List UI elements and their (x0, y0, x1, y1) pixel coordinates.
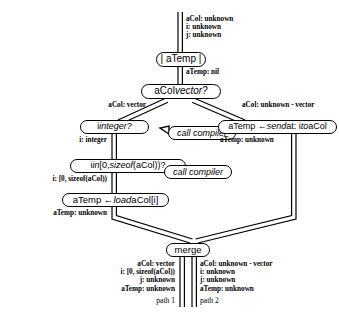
node-load-prefix: aTemp ← (73, 195, 114, 205)
diagram-canvas: | aTemp | aCol vector? i integer? call c… (0, 0, 339, 319)
node-merge[interactable]: merge (166, 243, 210, 257)
annotation-branch-false-acol-unknown: aCol: unknown - vector (242, 101, 314, 109)
node-test-i-integer-emph: integer? (99, 122, 132, 131)
node-merge-label: merge (175, 245, 202, 255)
node-load-suffix: aCol[i] (131, 195, 158, 205)
node-call-compiler-2-label: call compiler (173, 168, 223, 177)
node-test-acol-vector-prefix: aCol (154, 86, 175, 96)
label-path-2: path 2 (200, 297, 219, 305)
node-test-acol-vector[interactable]: aCol vector? (141, 84, 221, 99)
annotation-merge-path1-state: aCol: vector i: [0, sizeof(aCol)) j: unk… (83, 260, 175, 293)
annotation-merge-path2-state: aCol: unknown - vector i: unknown j: unk… (200, 260, 272, 293)
node-test-i-integer[interactable]: i integer? (80, 120, 149, 134)
edge-send-to-merge (196, 134, 297, 243)
node-send-suffix: aCol (308, 122, 327, 131)
edge-merge-path2 (192, 257, 196, 307)
node-send-mid: at: i (286, 122, 301, 131)
edge-entry-to-decl (178, 12, 182, 52)
annotation-branch-true-acol-vector: aCol: vector (58, 101, 146, 109)
node-send-emph2: to (301, 122, 309, 131)
node-declaration-label: | aTemp | (161, 54, 202, 64)
annotation-after-send: aTemp: unknown (220, 136, 274, 144)
node-send-emph: send (267, 122, 287, 131)
node-test-i-in-range-mid: [0, (99, 161, 109, 170)
annotation-after-i-in-range: i: [0, sizeof(aCol)) (6, 175, 107, 183)
node-load-emph: load (113, 195, 131, 205)
node-call-compiler-2[interactable]: call compiler (164, 165, 232, 179)
edge-merge-path1 (180, 257, 184, 307)
edge-testrange-to-load (112, 173, 116, 193)
node-test-i-in-range-emph2: sizeof (110, 161, 134, 170)
annotation-after-i-integer: i: integer (22, 136, 107, 144)
node-test-acol-vector-emph: vector? (175, 86, 208, 96)
annotation-after-declaration: aTemp: nil (186, 68, 219, 76)
node-declaration[interactable]: | aTemp | (156, 52, 206, 67)
edge-testint-to-testrange (112, 134, 116, 159)
node-test-i-in-range-emph: in (92, 161, 99, 170)
node-send-prefix: aTemp ← (228, 122, 267, 131)
node-test-i-in-range-suffix: (aCol))? (133, 161, 166, 170)
annotation-after-load: aTemp: unknown (6, 209, 107, 217)
edge-decl-to-testvec (178, 66, 182, 84)
label-path-1: path 1 (110, 297, 175, 305)
annotation-entry-state: aCol: unknown i: unknown j: unknown (186, 15, 233, 40)
node-send-at-to-acol[interactable]: aTemp ← send at: i to aCol (218, 120, 337, 134)
node-load-acol-i[interactable]: aTemp ← load aCol[i] (62, 193, 169, 207)
edge-load-to-merge (112, 207, 193, 243)
